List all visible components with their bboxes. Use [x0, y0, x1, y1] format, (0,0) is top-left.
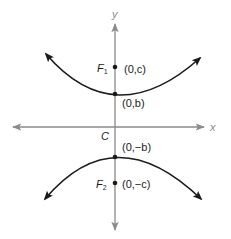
x-axis-label: x: [209, 121, 216, 133]
vertex-upper-coord: (0,b): [122, 97, 145, 109]
hyperbola-upper-branch: [46, 54, 200, 95]
focus-f1-coord: (0,c): [124, 63, 146, 75]
focus-f1-label: F1: [97, 62, 108, 75]
focus-f1-point: [113, 65, 118, 70]
hyperbola-diagram: x y F1 (0,c) (0,b) C (0,−b) F2 (0,−c): [0, 0, 231, 239]
focus-f2-point: [113, 181, 118, 186]
y-axis-label: y: [111, 8, 119, 20]
focus-f2-coord: (0,−c): [122, 178, 150, 190]
vertex-lower-coord: (0,−b): [122, 141, 151, 153]
focus-f2-label: F2: [96, 178, 107, 191]
vertex-lower-point: [113, 155, 118, 160]
center-label: C: [101, 130, 109, 142]
vertex-upper-point: [113, 92, 118, 97]
